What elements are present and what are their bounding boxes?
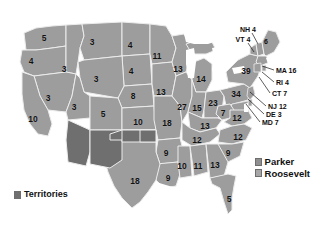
ev-label-idaho: 3 (62, 65, 67, 74)
ev-label-alabama: 11 (194, 162, 203, 171)
state-wyoming (78, 56, 124, 98)
territories-legend: Territories (14, 190, 68, 199)
ev-label-texas: 18 (130, 177, 139, 186)
ev-label-kentucky: 13 (200, 122, 209, 131)
territories-legend-label: Territories (24, 190, 68, 199)
lake-michigan (186, 48, 196, 78)
ev-label-louisiana: 9 (166, 174, 171, 183)
parker-color-swatch (255, 158, 262, 166)
legend-item-roosevelt: Roosevelt (255, 169, 310, 179)
ev-label-kansas: 10 (133, 118, 142, 127)
ev-label-nevada: 3 (46, 94, 51, 103)
electoral-map: 5433448331035101113181314271523343971213… (0, 0, 316, 235)
legend-item-territories: Territories (14, 190, 68, 199)
ev-label-south-carolina: 9 (226, 149, 231, 158)
ev-label-arkansas: 9 (164, 149, 169, 158)
ev-label-iowa: 13 (156, 88, 165, 97)
ev-label-tennessee: 12 (192, 136, 201, 145)
roosevelt-color-swatch (255, 169, 262, 177)
ev-label-minnesota: 11 (153, 52, 162, 61)
ev-label-montana: 3 (90, 38, 95, 47)
state-north-dakota (122, 22, 150, 56)
ev-label-south-dakota: 4 (129, 67, 134, 76)
ev-label-nebraska: 8 (131, 92, 136, 101)
state-south-dakota (122, 54, 152, 86)
ev-label-west-virginia: 7 (221, 109, 226, 118)
ev-label-missouri: 18 (162, 119, 171, 128)
state-colorado (90, 96, 122, 130)
ev-label-michigan: 14 (196, 75, 205, 84)
ev-label-new-york: 39 (241, 67, 250, 76)
state-oregon (20, 46, 66, 76)
ev-label-utah: 3 (72, 103, 77, 112)
ev-label-washington: 5 (42, 34, 47, 43)
parker-legend-label: Parker (265, 157, 295, 167)
ev-label-north-dakota: 4 (128, 41, 133, 50)
us-map-graphic (0, 0, 316, 235)
ev-label-georgia: 13 (210, 161, 219, 170)
callout-label-delaware: DE 3 (266, 111, 282, 118)
callout-label-connecticut: CT 7 (272, 90, 287, 97)
ev-label-north-carolina: 12 (233, 133, 242, 142)
ev-label-illinois: 27 (177, 103, 186, 112)
roosevelt-legend-label: Roosevelt (265, 169, 310, 179)
state-connecticut (254, 63, 261, 72)
ev-label-ohio: 23 (208, 99, 217, 108)
ev-label-oregon: 4 (29, 57, 34, 66)
callout-label-rhode-island: RI 4 (276, 79, 289, 86)
callout-label-massachusetts: MA 16 (276, 67, 296, 74)
ev-label-wisconsin: 13 (173, 65, 182, 74)
callout-label-maryland: MD 7 (262, 119, 279, 126)
callout-label-new-jersey: NJ 12 (268, 103, 287, 110)
ev-label-california: 10 (28, 115, 37, 124)
territory-indian (140, 130, 156, 142)
ev-label-colorado: 5 (101, 110, 106, 119)
callout-label-maine: 6 (264, 38, 268, 45)
territories-color-swatch (14, 191, 21, 199)
ev-label-indiana: 15 (192, 104, 201, 113)
ev-label-virginia: 12 (232, 114, 241, 123)
candidate-legend: Parker Roosevelt (255, 157, 310, 178)
ev-label-wyoming: 3 (94, 75, 99, 84)
ev-label-florida: 5 (227, 195, 232, 204)
state-montana (80, 22, 122, 60)
callout-label-vermont: VT 4 (236, 36, 251, 43)
legend-item-parker: Parker (255, 157, 310, 167)
ev-label-pennsylvania: 34 (231, 90, 240, 99)
callout-label-new-hampshire: NH 4 (240, 26, 256, 33)
ev-label-mississippi: 10 (177, 162, 186, 171)
